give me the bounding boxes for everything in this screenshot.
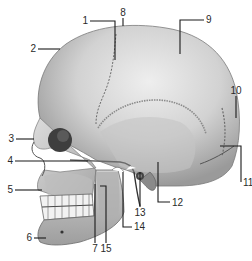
label-7: 7 [92,243,98,254]
label-12: 12 [172,197,184,208]
label-14: 14 [134,221,146,232]
label-4: 4 [7,155,13,166]
label-10: 10 [230,85,242,96]
skull-diagram: 1 2 3 4 5 6 7 8 9 10 11 12 13 14 15 [0,0,252,261]
label-15: 15 [100,243,112,254]
label-5: 5 [7,184,13,195]
label-8: 8 [120,7,126,18]
cranium [38,25,239,186]
skull-illustration: 1 2 3 4 5 6 7 8 9 10 11 12 13 14 15 [0,0,252,261]
label-1: 1 [82,15,88,26]
label-11: 11 [243,177,252,188]
label-3: 3 [8,133,14,144]
label-2: 2 [30,43,36,54]
label-13: 13 [134,207,146,218]
label-9: 9 [206,14,212,25]
label-6: 6 [26,232,32,243]
teeth [40,194,94,220]
